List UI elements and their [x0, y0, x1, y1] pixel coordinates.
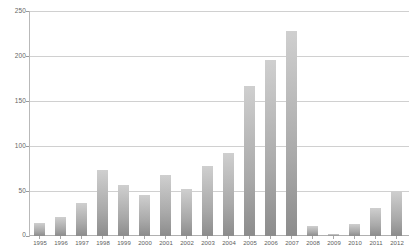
y-tick-label-150: 150 — [2, 98, 26, 105]
y-tick-label-100: 100 — [2, 143, 26, 150]
y-axis-labels: 250 200 150 100 50 0 — [0, 0, 26, 252]
x-axis-labels: 1995 1996 1997 1998 1999 2000 2001 2002 … — [29, 0, 409, 252]
y-tick-label-200: 200 — [2, 53, 26, 60]
y-tick-label-0: 0 — [2, 232, 26, 239]
y-tick-label-50: 50 — [2, 188, 26, 195]
y-tick-label-250: 250 — [2, 8, 26, 15]
x-tick-label-2012: 2012 — [382, 240, 412, 246]
bar-chart: 250 200 150 100 50 0 1995 1996 1997 1998… — [0, 0, 416, 252]
